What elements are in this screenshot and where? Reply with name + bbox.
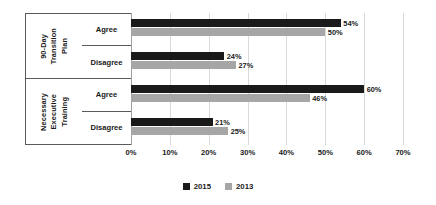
bar-pair-agree-2: 60%46% [131,79,403,112]
group-word: Executive [50,94,57,129]
legend-label: 2015 [194,182,211,191]
x-tick-label-50: 50% [318,148,333,157]
group-word: Necessary [40,93,47,131]
bar-value-label: 50% [328,28,343,37]
legend-swatch-icon [183,183,190,190]
bar-value-label: 24% [227,52,242,61]
category-group-necessary-executive-training: Necessary Executive Training Agree Disag… [26,79,131,144]
legend-item-2013[interactable]: 2013 [225,182,253,191]
group-word: 90-Day [40,34,47,59]
category-axis-table: 90-Day Transition Plan Agree Disagree Ne… [25,13,131,145]
bar-2015-agree: 54% [131,19,341,27]
response-label-agree: Agree [82,79,131,112]
bar-fill [131,85,364,93]
bar-fill [131,61,236,69]
bar-fill [131,127,228,135]
x-tick-label-20: 20% [201,148,216,157]
bar-pair-disagree-3: 21%25% [131,112,403,145]
bar-fill [131,118,213,126]
group-label-rotated: Necessary Executive Training [26,79,82,144]
bar-2015-agree: 60% [131,85,364,93]
group-word: Training [61,97,68,127]
legend-swatch-icon [225,183,232,190]
group-word: Transition [50,28,57,64]
response-label-agree: Agree [82,14,131,46]
x-tick-label-0: 0% [126,148,137,157]
x-tick-label-40: 40% [279,148,294,157]
bar-series-container: 54%50%24%27%60%46%21%25% [131,13,403,145]
x-tick-label-10: 10% [162,148,177,157]
group-word: Plan [61,38,68,54]
x-axis: 0%10%20%30%40%50%60%70% [131,145,403,161]
bar-2013-disagree: 25% [131,127,228,135]
chart-legend: 20152013 [0,182,436,191]
response-label-disagree: Disagree [82,46,131,78]
x-tick-label-70: 70% [395,148,410,157]
bar-2013-disagree: 27% [131,61,236,69]
response-label-column: Agree Disagree [82,79,131,144]
bar-chart: 90-Day Transition Plan Agree Disagree Ne… [0,0,436,205]
bar-value-label: 54% [343,19,358,28]
response-label-column: Agree Disagree [82,14,131,78]
x-tick-label-60: 60% [357,148,372,157]
legend-item-2015[interactable]: 2015 [183,182,211,191]
bar-2013-agree: 46% [131,94,310,102]
bar-value-label: 27% [238,61,253,70]
bar-2015-disagree: 21% [131,118,213,126]
bar-pair-disagree-1: 24%27% [131,46,403,79]
response-label-disagree: Disagree [82,112,131,145]
bar-value-label: 25% [231,127,246,136]
bar-fill [131,28,325,36]
bar-2013-agree: 50% [131,28,325,36]
gridline-70 [403,13,404,145]
category-group-90-day-transition-plan: 90-Day Transition Plan Agree Disagree [26,14,131,79]
plot-area: 54%50%24%27%60%46%21%25% [131,13,403,145]
bar-pair-agree-0: 54%50% [131,13,403,46]
bar-fill [131,52,224,60]
bar-fill [131,19,341,27]
x-tick-label-30: 30% [240,148,255,157]
bar-value-label: 46% [312,94,327,103]
group-label-rotated: 90-Day Transition Plan [26,14,82,78]
bar-value-label: 60% [367,85,382,94]
bar-2015-disagree: 24% [131,52,224,60]
legend-label: 2013 [236,182,253,191]
bar-fill [131,94,310,102]
bar-value-label: 21% [215,118,230,127]
